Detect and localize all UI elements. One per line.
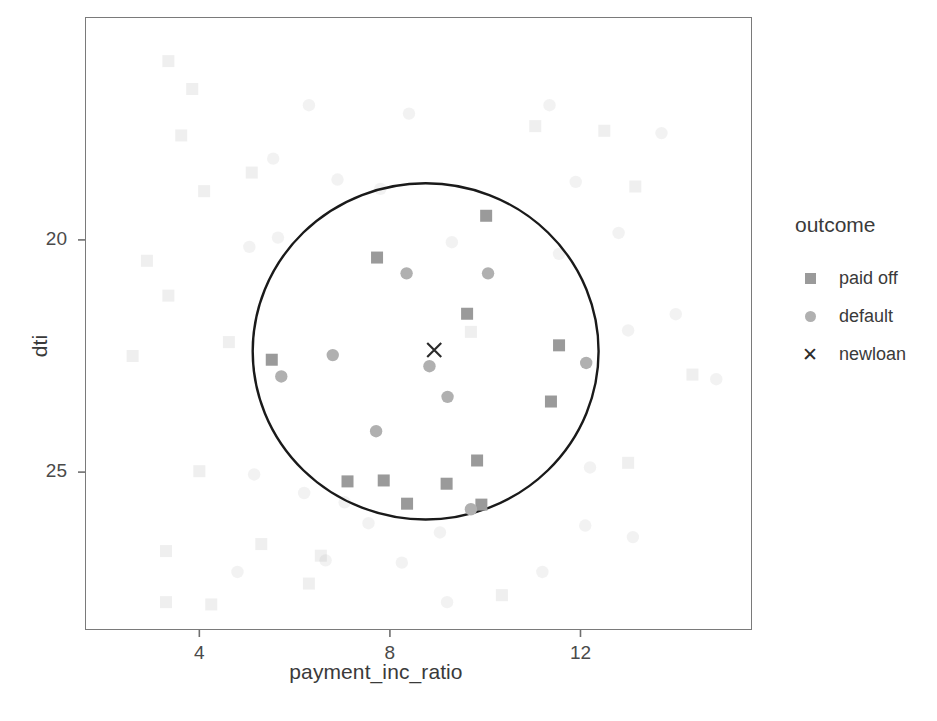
x-tick-label: 8 (360, 642, 420, 664)
plot-panel (85, 17, 752, 630)
square-marker-icon (793, 273, 827, 284)
legend-item-paid-off[interactable]: paid off (793, 259, 933, 297)
legend-item-label: newloan (839, 344, 906, 365)
legend-item-label: paid off (839, 268, 898, 289)
legend: outcome paid off default ✕ newloan (793, 213, 933, 373)
cross-marker-icon: ✕ (793, 345, 827, 364)
y-tick-label: 25 (19, 460, 67, 482)
circle-marker-icon (793, 311, 827, 322)
scatter-plot-figure: payment_inc_ratio dti 4812 2520 outcome … (0, 0, 937, 721)
x-tick-label: 12 (550, 642, 610, 664)
legend-item-default[interactable]: default (793, 297, 933, 335)
x-tick-label: 4 (169, 642, 229, 664)
y-axis-title: dti (28, 296, 52, 396)
x-axis-ticks (199, 630, 580, 637)
legend-title: outcome (795, 213, 933, 237)
y-axis-ticks (78, 240, 85, 472)
legend-item-newloan[interactable]: ✕ newloan (793, 335, 933, 373)
y-tick-label: 20 (19, 228, 67, 250)
legend-item-label: default (839, 306, 893, 327)
